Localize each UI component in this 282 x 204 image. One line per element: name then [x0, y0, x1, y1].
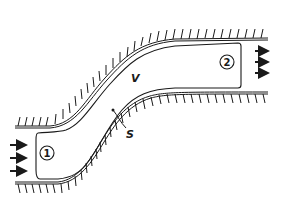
control-volume-boundary [36, 43, 241, 179]
upper-wall [15, 38, 268, 128]
volume-label: V [131, 72, 141, 85]
lower-wall [15, 92, 268, 184]
inlet-flow-arrows [10, 145, 26, 171]
section-2-marker: 2 [220, 55, 234, 69]
inlet-label: 1 [44, 148, 51, 159]
flow-diagram: 1 2 V S [0, 0, 282, 204]
surface-annotation: S [112, 109, 135, 142]
outlet-label: 2 [224, 57, 231, 68]
surface-label: S [126, 128, 134, 141]
outlet-flow-arrows [255, 51, 268, 73]
section-1-marker: 1 [40, 146, 54, 160]
lower-wall-hatching [18, 94, 265, 193]
